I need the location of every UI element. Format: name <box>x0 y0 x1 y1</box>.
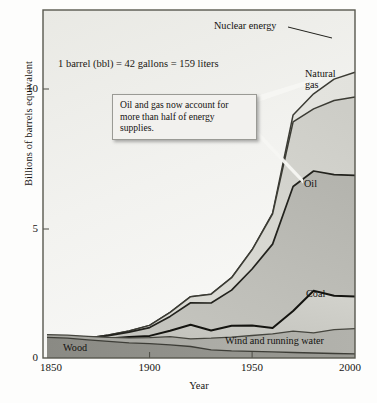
series-label-oil: Oil <box>304 178 317 189</box>
series-label-wood: Wood <box>63 342 87 353</box>
series-label-coal: Coal <box>306 288 325 299</box>
oil-gas-callout: Oil and gas now account for more than ha… <box>112 94 257 140</box>
x-tick-1850: 1850 <box>40 361 62 373</box>
y-tick-labels: 10 5 0 <box>0 0 38 403</box>
x-tick-1950: 1950 <box>241 361 263 373</box>
series-label-wind-and-running-water: Wind and running water <box>225 335 324 346</box>
barrel-conversion-note: 1 barrel (bbl) = 42 gallons = 159 liters <box>58 58 219 69</box>
x-axis-title: Year <box>43 380 355 391</box>
x-tick-2000: 2000 <box>339 361 361 373</box>
energy-sources-area-chart: Billions of barrels equivalent 10 5 0 18… <box>0 0 377 403</box>
series-label-natural-gas: Natural gas <box>305 68 351 91</box>
y-tick-10: 10 <box>27 82 38 94</box>
series-label-nuclear-energy: Nuclear energy <box>214 20 276 31</box>
x-tick-1900: 1900 <box>139 361 161 373</box>
y-tick-0: 0 <box>33 351 39 363</box>
y-tick-5: 5 <box>33 222 39 234</box>
